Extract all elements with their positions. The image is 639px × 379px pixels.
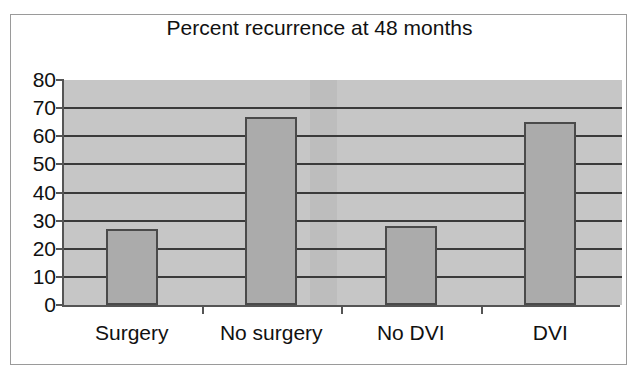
x-tick-mark-2 <box>341 305 343 314</box>
y-tick-label-40: 40 <box>0 182 56 203</box>
y-tick-label-0: 0 <box>0 294 56 315</box>
x-category-label-no-surgery: No surgery <box>202 318 342 352</box>
x-category-label-dvi: DVI <box>481 318 621 352</box>
x-tick-mark-1 <box>202 305 204 314</box>
y-tick-label-80: 80 <box>0 69 56 90</box>
y-tick-label-10: 10 <box>0 266 56 287</box>
x-category-label-no-dvi: No DVI <box>341 318 481 352</box>
bar-surgery <box>106 229 158 305</box>
x-category-label-surgery: Surgery <box>62 318 202 352</box>
y-tick-label-50: 50 <box>0 153 56 174</box>
y-tick-label-60: 60 <box>0 125 56 146</box>
chart-title: Percent recurrence at 48 months <box>0 16 639 40</box>
bar-no-dvi <box>385 226 437 305</box>
y-tick-label-30: 30 <box>0 210 56 231</box>
bar-no-surgery <box>245 117 297 305</box>
bar-dvi <box>524 122 576 305</box>
y-axis: 01020304050607080 <box>0 80 56 305</box>
x-axis-labels: SurgeryNo surgeryNo DVIDVI <box>62 318 620 352</box>
y-tick-label-20: 20 <box>0 238 56 259</box>
x-tick-mark-3 <box>481 305 483 314</box>
y-tick-label-70: 70 <box>0 97 56 118</box>
bars-group <box>62 80 620 305</box>
